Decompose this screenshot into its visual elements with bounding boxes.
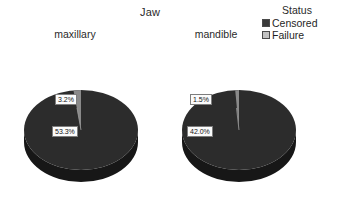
- legend-label-censored: Censored: [272, 18, 318, 29]
- legend-item-failure[interactable]: Failure: [262, 30, 340, 41]
- legend: Status Censored Failure: [262, 4, 340, 41]
- legend-title: Status: [262, 4, 332, 16]
- legend-label-failure: Failure: [272, 30, 304, 41]
- data-label-failure-mandible: 1.5%: [190, 94, 212, 105]
- panel-label-maxillary: maxillary: [22, 28, 128, 40]
- pie-maxillary: 3.2% 53.3%: [22, 78, 140, 182]
- pie-mandible: 1.5% 42.0%: [180, 78, 298, 182]
- legend-item-censored[interactable]: Censored: [262, 18, 340, 29]
- data-label-failure-maxillary: 3.2%: [55, 94, 77, 105]
- panel-label-mandible: mandible: [166, 28, 266, 40]
- pie-chart-figure: Jaw maxillary mandible Status Censored F…: [0, 0, 342, 200]
- data-label-censored-mandible: 42.0%: [187, 126, 213, 137]
- data-label-censored-maxillary: 53.3%: [52, 126, 78, 137]
- legend-swatch-failure-icon: [262, 31, 270, 39]
- chart-group-title: Jaw: [0, 6, 300, 18]
- pie-maxillary-svg: [22, 78, 140, 182]
- legend-swatch-censored-icon: [262, 19, 270, 27]
